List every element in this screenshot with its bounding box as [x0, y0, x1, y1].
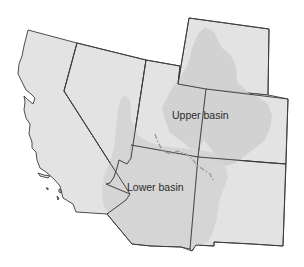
basin-map: Upper basin Lower basin — [0, 0, 304, 267]
upper-basin-label: Upper basin — [172, 109, 229, 121]
lower-basin-label: Lower basin — [127, 181, 184, 193]
map-svg — [0, 0, 304, 267]
